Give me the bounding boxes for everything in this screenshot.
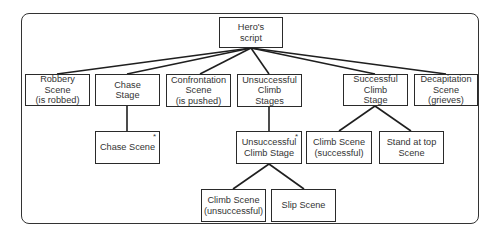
node-label: Chase Stage: [114, 80, 141, 101]
node-confrontation-scene: Confrontation Scene (is pushed): [166, 74, 231, 107]
edge-heros-script-to-successful-climb-stage: [251, 48, 375, 74]
edge-heros-script-to-decapitation-scene: [251, 48, 446, 74]
edge-unsuccessful-climb-stage-to-climb-scene-unsuccessful: [233, 164, 269, 189]
edge-unsuccessful-climb-stage-to-slip-scene: [269, 164, 304, 189]
star-marker-icon: *: [153, 133, 156, 141]
node-label: Successful Climb Stage: [353, 74, 397, 106]
edge-heros-script-to-robbery-scene: [57, 48, 251, 74]
node-successful-climb-stage: Successful Climb Stage: [343, 74, 408, 106]
node-label: Climb Scene (unsuccessful): [204, 195, 263, 216]
node-chase-scene: Chase Scene*: [95, 131, 160, 164]
node-unsuccessful-climb-stages: Unsuccessful Climb Stages: [237, 74, 302, 107]
edge-heros-script-to-chase-stage: [127, 48, 251, 74]
node-stand-at-top-scene: Stand at top Scene: [379, 131, 444, 164]
node-decapitation-scene: Decapitation Scene (grieves): [414, 74, 478, 106]
star-marker-icon: *: [295, 133, 298, 141]
node-label: Climb Scene (successful): [313, 137, 365, 158]
edge-successful-climb-stage-to-climb-scene-successful: [339, 106, 375, 131]
node-label: Slip Scene: [282, 200, 326, 211]
node-label: Chase Scene: [100, 142, 155, 153]
node-label: Stand at top Scene: [387, 137, 437, 158]
node-label: Hero's script: [238, 22, 264, 43]
node-climb-scene-unsuccessful: Climb Scene (unsuccessful): [201, 189, 266, 222]
node-heros-script: Hero's script: [219, 17, 283, 48]
node-chase-stage: Chase Stage: [95, 74, 160, 106]
edge-successful-climb-stage-to-stand-at-top-scene: [375, 106, 411, 131]
node-label: Decapitation Scene (grieves): [420, 74, 471, 106]
node-robbery-scene: Robbery Scene (is robbed): [25, 74, 90, 106]
node-label: Confrontation Scene (is pushed): [171, 75, 226, 107]
node-slip-scene: Slip Scene: [271, 189, 336, 222]
node-climb-scene-successful: Climb Scene (successful): [306, 131, 372, 164]
node-label: Unsuccessful Climb Stage: [242, 137, 297, 158]
node-label: Robbery Scene (is robbed): [26, 74, 89, 106]
node-label: Unsuccessful Climb Stages: [242, 75, 297, 107]
node-unsuccessful-climb-stage: Unsuccessful Climb Stage*: [236, 131, 302, 164]
